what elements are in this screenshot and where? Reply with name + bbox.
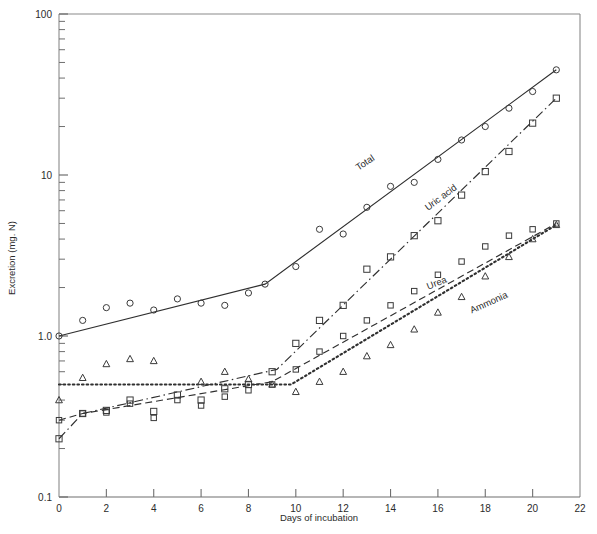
x-axis-label: Days of incubation (280, 512, 358, 523)
x-tick-label: 4 (151, 503, 157, 514)
y-tick-label: 10 (41, 170, 53, 181)
y-axis-label: Excretion (mg. N) (6, 221, 17, 295)
y-tick-label: 1.0 (38, 331, 52, 342)
x-tick-label: 8 (246, 503, 252, 514)
x-tick-label: 20 (527, 503, 539, 514)
y-tick-label: 0.1 (38, 492, 52, 503)
x-tick-label: 6 (198, 503, 204, 514)
excretion-log-chart: 100101.00.1 0246810121416182022 TotalUri… (0, 0, 597, 534)
x-tick-label: 0 (56, 503, 62, 514)
x-tick-label: 16 (432, 503, 444, 514)
x-tick-label: 18 (480, 503, 492, 514)
chart-figure: 100101.00.1 0246810121416182022 TotalUri… (0, 0, 597, 534)
x-tick-label: 22 (574, 503, 586, 514)
x-tick-label: 2 (104, 503, 110, 514)
x-tick-label: 14 (385, 503, 397, 514)
y-tick-label: 100 (35, 9, 52, 20)
